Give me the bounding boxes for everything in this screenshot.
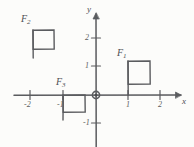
y-axis-label: y [87,5,91,14]
x-axis-label: x [182,97,186,106]
flag-label-f2-subscript: 2 [27,18,31,26]
flag-label-f2: F2 [21,14,31,26]
y-axis-line [93,13,99,147]
y-tick-label--1: -1 [83,119,90,127]
x-tick-label--2: -2 [24,101,31,109]
flag-label-f3: F3 [56,77,66,89]
flag-shape-f3 [63,95,85,120]
flag-label-f1-subscript: 1 [123,52,127,60]
x-tick-label-1: 1 [126,101,130,109]
x-tick-label-2: 2 [158,101,162,109]
x-tick-label--1: -1 [57,101,64,109]
y-tick-label-1: 1 [85,62,89,70]
flag-label-f3-subscript: 3 [62,81,66,89]
coordinate-figure: -2 -1 1 2 2 1 -1 x y F1 F2 F3 [0,0,194,147]
flag-label-f1: F1 [117,48,127,60]
flag-shape-f2 [33,30,54,58]
flag-shape-f1 [128,61,150,95]
y-tick-label-2: 2 [85,34,89,42]
